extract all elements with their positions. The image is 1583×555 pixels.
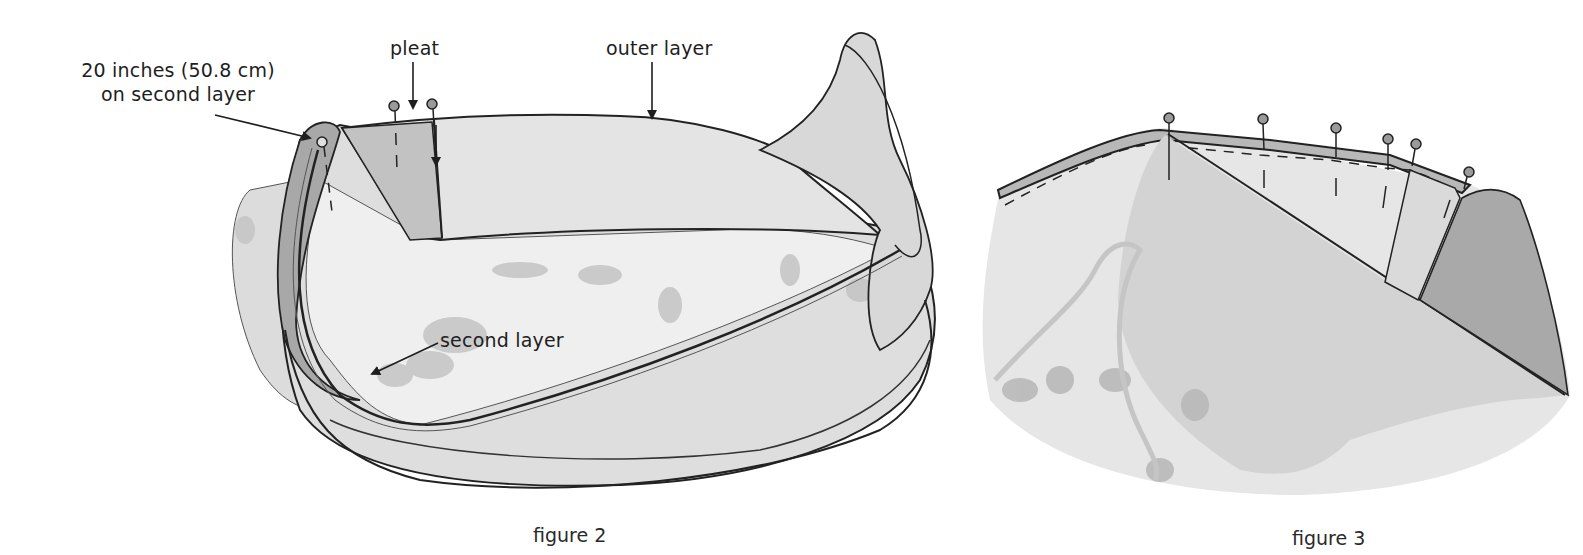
measurement-label-line1: 20 inches (50.8 cm) xyxy=(78,58,278,82)
figure-2-caption: figure 2 xyxy=(533,524,606,546)
outer-layer-label: outer layer xyxy=(606,36,713,60)
pleat-label: pleat xyxy=(390,36,439,60)
pin-head xyxy=(1464,167,1474,177)
measurement-label-line2: on second layer xyxy=(78,82,278,106)
pin-head xyxy=(1331,123,1341,133)
pin-head xyxy=(1383,134,1393,144)
pin-head xyxy=(1258,114,1268,124)
pin-head xyxy=(1411,139,1421,149)
measurement-label: 20 inches (50.8 cm) on second layer xyxy=(78,58,278,106)
figure-3-caption: figure 3 xyxy=(1292,527,1365,549)
second-layer-label: second layer xyxy=(440,328,564,352)
pin-head xyxy=(1164,113,1174,123)
